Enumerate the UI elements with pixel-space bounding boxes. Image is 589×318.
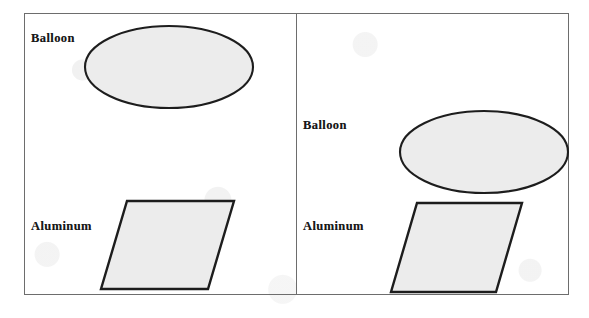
figure-root: Balloon Aluminum Balloon Aluminum <box>0 0 589 318</box>
aluminum-parallelogram-left <box>25 14 296 296</box>
panel-right: Balloon Aluminum <box>297 14 569 294</box>
panel-left: Balloon Aluminum <box>25 14 296 294</box>
aluminum-parallelogram-right <box>297 14 569 296</box>
figure-frame: Balloon Aluminum Balloon Aluminum <box>24 13 569 295</box>
